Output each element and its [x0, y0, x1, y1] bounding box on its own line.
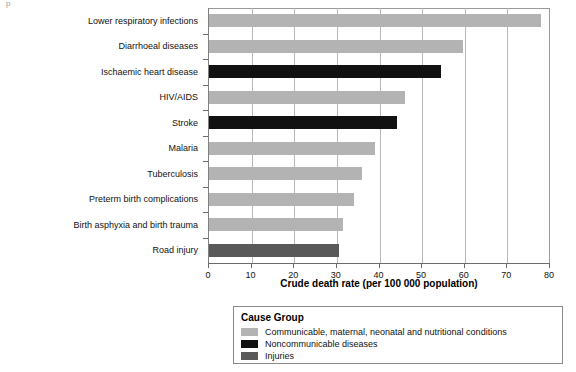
- legend-swatch: [241, 328, 258, 336]
- category-label: Preterm birth complications: [89, 194, 198, 204]
- y-axis-tick: [203, 161, 208, 162]
- x-axis-tick: [379, 263, 380, 268]
- x-axis-title: Crude death rate (per 100 000 population…: [208, 278, 550, 289]
- bar: [209, 193, 354, 206]
- legend-swatch: [241, 340, 258, 348]
- legend-label: Noncommunicable diseases: [265, 339, 378, 349]
- y-axis-tick: [203, 110, 208, 111]
- y-axis-tick: [203, 212, 208, 213]
- x-axis-tick: [549, 263, 550, 268]
- category-label: Diarrhoeal diseases: [118, 41, 198, 51]
- x-axis-tick: [293, 263, 294, 268]
- category-axis-labels: Lower respiratory infectionsDiarrhoeal d…: [0, 8, 204, 263]
- bar: [209, 142, 375, 155]
- top-left-artifact: p: [6, 0, 36, 8]
- category-label: Stroke: [172, 118, 198, 128]
- category-label: Birth asphyxia and birth trauma: [73, 220, 198, 230]
- category-label: Malaria: [168, 143, 198, 153]
- legend-item: Communicable, maternal, neonatal and nut…: [241, 326, 555, 337]
- legend-title: Cause Group: [241, 312, 555, 323]
- y-axis-tick: [203, 59, 208, 60]
- bar: [209, 116, 397, 129]
- category-label: Ischaemic heart disease: [101, 67, 198, 77]
- legend: Cause Group Communicable, maternal, neon…: [233, 306, 563, 364]
- plot-area: [208, 8, 550, 263]
- bar: [209, 40, 463, 53]
- x-axis-tick: [506, 263, 507, 268]
- y-axis-tick: [203, 136, 208, 137]
- category-label: HIV/AIDS: [159, 92, 198, 102]
- x-axis-tick: [464, 263, 465, 268]
- bar: [209, 14, 541, 27]
- legend-swatch: [241, 352, 258, 360]
- legend-item-list: Communicable, maternal, neonatal and nut…: [241, 326, 555, 361]
- y-axis-tick: [203, 187, 208, 188]
- bar-chart: p Lower respiratory infectionsDiarrhoeal…: [0, 0, 576, 372]
- legend-label: Injuries: [265, 351, 294, 361]
- bar: [209, 65, 441, 78]
- bar: [209, 244, 339, 257]
- legend-item: Injuries: [241, 350, 555, 361]
- category-label: Tuberculosis: [147, 169, 198, 179]
- x-axis-tick: [208, 263, 209, 268]
- y-axis-tick: [203, 238, 208, 239]
- gridline: [465, 8, 466, 263]
- plot-area-wrapper: Lower respiratory infectionsDiarrhoeal d…: [0, 8, 576, 263]
- x-axis-tick: [251, 263, 252, 268]
- x-axis-tick: [336, 263, 337, 268]
- x-axis-tick: [421, 263, 422, 268]
- y-axis-tick: [203, 34, 208, 35]
- gridline: [507, 8, 508, 263]
- legend-item: Noncommunicable diseases: [241, 338, 555, 349]
- bar: [209, 218, 343, 231]
- legend-label: Communicable, maternal, neonatal and nut…: [265, 327, 507, 337]
- category-label: Lower respiratory infections: [88, 16, 198, 26]
- category-label: Road injury: [152, 245, 198, 255]
- bar: [209, 167, 362, 180]
- bar: [209, 91, 405, 104]
- y-axis-tick: [203, 85, 208, 86]
